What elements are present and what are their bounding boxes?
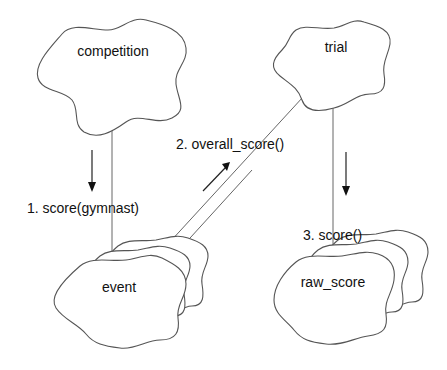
cloud-shape-icon xyxy=(274,252,394,344)
message-1: 1. score(gymnast) xyxy=(27,150,139,216)
message-label: 2. overall_score() xyxy=(176,136,284,152)
message-label: 1. score(gymnast) xyxy=(27,200,139,216)
object-competition[interactable]: competition xyxy=(37,19,186,135)
object-label: competition xyxy=(77,43,149,59)
object-label: trial xyxy=(325,39,348,55)
object-trial[interactable]: trial xyxy=(273,21,390,110)
arrow-up-right-icon xyxy=(203,167,226,191)
cloud-shape-icon xyxy=(273,21,390,110)
cloud-shape-icon xyxy=(54,255,186,348)
object-label: raw_score xyxy=(301,274,366,290)
message-2: 2. overall_score() xyxy=(176,136,284,191)
collaboration-diagram: competition trial event raw_score 1. sco… xyxy=(0,0,447,370)
object-event[interactable]: event xyxy=(54,236,208,348)
message-label: 3. score() xyxy=(303,227,362,243)
object-raw-score[interactable]: raw_score xyxy=(274,230,428,344)
arrowhead-icon xyxy=(88,182,96,192)
object-label: event xyxy=(102,279,136,295)
arrowhead-icon xyxy=(342,186,350,196)
cloud-shape-icon xyxy=(37,19,186,135)
